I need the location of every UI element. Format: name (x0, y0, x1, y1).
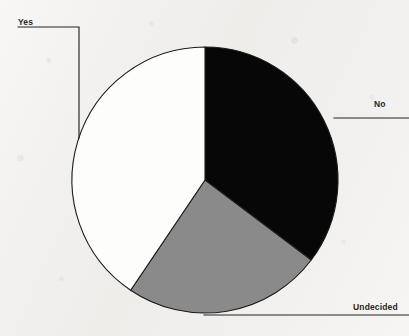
leader-line-yes (18, 27, 79, 138)
pie-label-undecided: Undecided (353, 302, 398, 312)
pie-label-yes: Yes (18, 17, 33, 27)
pie-label-no: No (374, 99, 386, 109)
pie-chart-figure: Yes No Undecided (0, 0, 409, 336)
pie-slices (72, 47, 338, 313)
pie-chart-canvas (0, 0, 409, 336)
